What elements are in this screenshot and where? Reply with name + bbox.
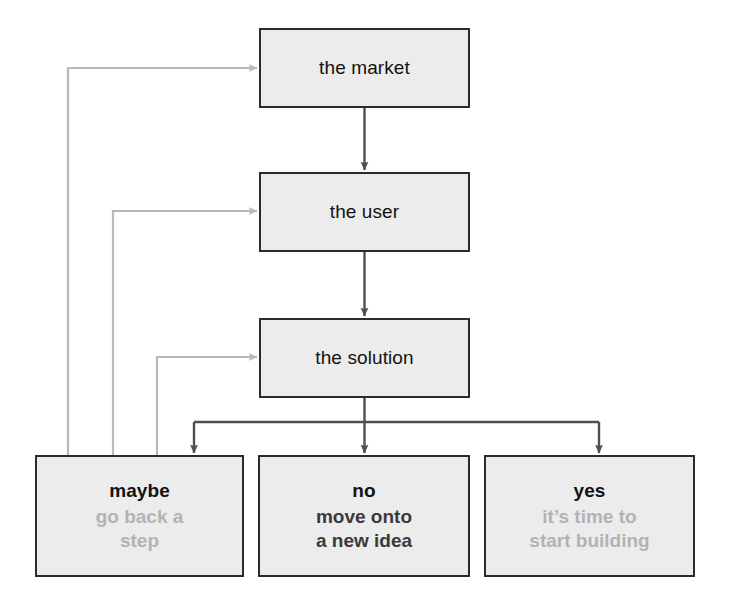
node-no[interactable]: no move onto a new idea [258, 455, 470, 577]
node-no-subtitle-line2: a new idea [316, 529, 412, 553]
node-no-subtitle: move onto a new idea [316, 505, 412, 553]
node-the-market-label: the market [319, 56, 410, 80]
node-the-user[interactable]: the user [259, 172, 470, 252]
node-no-label: no [352, 479, 375, 503]
node-yes-label: yes [573, 479, 605, 503]
node-no-subtitle-line1: move onto [316, 505, 412, 529]
connector-maybe-to-user [113, 211, 257, 455]
node-the-solution-label: the solution [315, 346, 413, 370]
node-the-user-label: the user [330, 200, 399, 224]
node-yes-subtitle: it’s time to start building [529, 505, 649, 553]
node-yes-subtitle-line1: it’s time to [529, 505, 649, 529]
flowchart-canvas: the market the user the solution maybe g… [0, 0, 731, 613]
node-maybe[interactable]: maybe go back a step [35, 455, 244, 577]
node-the-solution[interactable]: the solution [259, 318, 470, 398]
connector-maybe-to-solution [157, 357, 257, 455]
node-the-market[interactable]: the market [259, 28, 470, 108]
node-maybe-subtitle-line2: step [96, 529, 184, 553]
node-yes-subtitle-line2: start building [529, 529, 649, 553]
node-maybe-subtitle: go back a step [96, 505, 184, 553]
node-maybe-subtitle-line1: go back a [96, 505, 184, 529]
node-yes[interactable]: yes it’s time to start building [484, 455, 695, 577]
node-maybe-label: maybe [109, 479, 170, 503]
connector-maybe-to-market [68, 68, 257, 455]
